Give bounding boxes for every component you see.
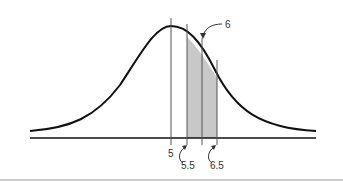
bell-curve [30, 26, 316, 131]
label-6: 6 [225, 19, 231, 30]
label-5: 5 [168, 148, 174, 159]
normal-distribution-diagram: 6 5 5.5 6.5 [0, 0, 343, 181]
label-5-5: 5.5 [181, 160, 195, 171]
arrow-6-head [200, 33, 206, 39]
arrow-6 [203, 24, 222, 36]
label-6-5: 6.5 [210, 160, 224, 171]
